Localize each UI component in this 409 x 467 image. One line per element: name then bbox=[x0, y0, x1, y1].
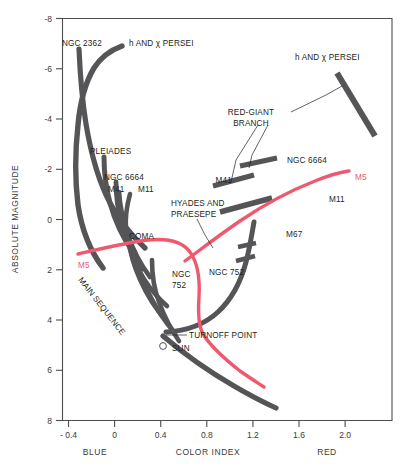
bar-ngc752-clump-a bbox=[238, 243, 256, 247]
label-ngc752-left-line1: NGC bbox=[172, 270, 191, 279]
label-hyades-line1: HYADES AND bbox=[171, 199, 225, 208]
bar-ngc6664-giants bbox=[240, 158, 277, 166]
bar-ngc752-clump-b bbox=[236, 256, 255, 261]
label-red-giant-line2: BRANCH bbox=[233, 119, 268, 128]
label-m41-left: M41 bbox=[108, 185, 125, 194]
label-m11-right: M11 bbox=[329, 195, 345, 204]
y-tick-7: 6 bbox=[47, 365, 52, 375]
label-ngc6664-left: NGC 6664 bbox=[104, 173, 144, 182]
label-m5-left: M5 bbox=[78, 261, 90, 270]
label-sun: SUN bbox=[172, 344, 190, 353]
bar-h-chi-persei-giants bbox=[337, 73, 375, 136]
label-ngc752-left-line2: 752 bbox=[172, 281, 186, 290]
x-axis-red-label: RED bbox=[317, 447, 337, 457]
x-axis-blue-label: BLUE bbox=[83, 447, 107, 457]
y-tick-6: 4 bbox=[47, 315, 52, 325]
y-axis-title: ABSOLUTE MAGNITUDE bbox=[10, 165, 20, 274]
y-tick-0: -8 bbox=[44, 14, 52, 24]
y-tick-3: -2 bbox=[44, 164, 52, 174]
y-tick-4: 0 bbox=[47, 215, 52, 225]
label-m67: M67 bbox=[286, 230, 303, 239]
label-ngc2362: NGC 2362 bbox=[62, 39, 102, 48]
label-m11-left: M11 bbox=[138, 185, 154, 194]
x-axis-title: COLOR INDEX bbox=[176, 447, 241, 457]
x-tick-4: 1.2 bbox=[247, 430, 259, 440]
x-tick-1: 0 bbox=[112, 430, 117, 440]
label-turnoff-point: TURNOFF POINT bbox=[189, 331, 257, 340]
y-tick-8: 8 bbox=[47, 416, 52, 426]
y-tick-1: -6 bbox=[44, 64, 52, 74]
label-h-chi-persei-right: h AND χ PERSEI bbox=[295, 53, 360, 62]
label-pleiades: PLEIADES bbox=[90, 147, 132, 156]
y-axis-tick-labels: -8 -6 -4 -2 0 2 4 6 8 bbox=[44, 14, 52, 426]
sun-marker bbox=[160, 343, 167, 350]
x-tick-6: 2.0 bbox=[339, 430, 351, 440]
x-tick-3: 0.8 bbox=[201, 430, 213, 440]
color-magnitude-diagram: -8 -6 -4 -2 0 2 4 6 8 - 0.4 0 0.4 0.8 1.… bbox=[0, 0, 409, 467]
leader-h-chi-persei-right bbox=[291, 86, 342, 112]
leader-red-giant-b bbox=[231, 125, 258, 182]
label-main-sequence: MAIN SEQUENCE bbox=[76, 276, 127, 338]
x-axis-ticks bbox=[69, 421, 346, 428]
label-h-chi-persei-left: h AND χ PERSEI bbox=[129, 39, 194, 48]
label-hyades-line2: PRAESEPE bbox=[171, 210, 217, 219]
y-tick-2: -4 bbox=[44, 114, 52, 124]
y-tick-5: 2 bbox=[47, 265, 52, 275]
label-red-giant-line1: RED-GIANT bbox=[228, 108, 274, 117]
y-axis-ticks bbox=[56, 19, 63, 421]
leader-hyades bbox=[197, 219, 213, 248]
label-m5-right: M5 bbox=[355, 173, 367, 182]
label-m41-right: M41 bbox=[216, 176, 233, 185]
x-tick-2: 0.4 bbox=[155, 430, 167, 440]
x-tick-0: - 0.4 bbox=[60, 430, 77, 440]
cluster-curves bbox=[76, 46, 276, 408]
label-ngc6664-right: NGC 6664 bbox=[287, 156, 327, 165]
x-axis-tick-labels: - 0.4 0 0.4 0.8 1.2 1.6 2.0 bbox=[60, 430, 351, 440]
label-ngc752-right: NGC 752 bbox=[209, 268, 244, 277]
x-tick-5: 1.6 bbox=[293, 430, 305, 440]
label-coma: COMA bbox=[129, 232, 155, 241]
